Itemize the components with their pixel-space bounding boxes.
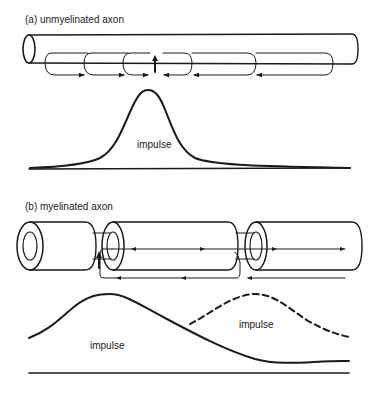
- impulse-curve-a: [29, 90, 350, 169]
- panel-b-impulse-label-dashed: impulse: [239, 319, 273, 330]
- panel-a-title: (a) unmyelinated axon: [25, 14, 124, 25]
- axon-diagram: [0, 0, 383, 395]
- myelin-sheath-1: [17, 222, 96, 270]
- myelin-sheath-3: [245, 222, 362, 270]
- panel-b-impulse-label-solid: impulse: [90, 340, 124, 351]
- myelin-sheath-2: [102, 222, 238, 270]
- impulse-curve-b-solid: [29, 294, 349, 373]
- unmyelinated-axon-tube: [23, 34, 358, 64]
- impulse-curve-b-dashed: [190, 294, 349, 337]
- saltatory-current-b: [100, 247, 345, 280]
- panel-b-title: (b) myelinated axon: [25, 201, 113, 212]
- panel-a-impulse-label: impulse: [137, 139, 171, 150]
